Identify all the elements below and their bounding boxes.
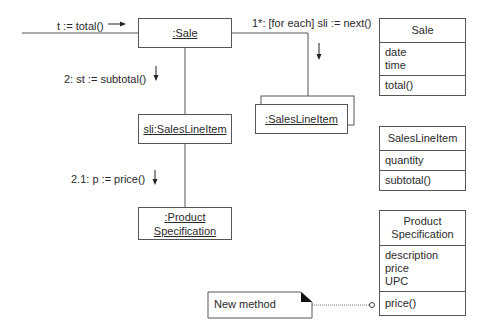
attribute: time [385,59,460,72]
arrow-right-icon [108,22,126,27]
class-sli-attributes: quantity [380,151,465,171]
class-prodspec-attributes: description price UPC [380,246,465,292]
operation: total() [385,79,460,92]
class-sales-line-item[interactable]: SalesLineItem quantity subtotal() [379,126,466,191]
class-sale-operations: total() [380,76,465,95]
object-sale[interactable]: :Sale [138,18,232,48]
class-prodspec-name-1: Product [382,215,463,228]
object-prodspec-label-1: :Product [165,210,206,224]
arrow-down-icon [154,66,159,81]
class-prodspec-name-2: Specification [382,228,463,241]
attribute: date [385,46,460,59]
multiobject-sales-line-item[interactable]: :SalesLineItem [255,104,348,134]
note-text: New method [214,298,276,310]
message-price: 2.1: p := price() [71,173,145,185]
message-total: t := total() [57,20,104,32]
message-subtotal: 2: st := subtotal() [64,73,146,85]
object-prodspec-label-2: Specification [154,224,216,238]
arrow-down-icon [153,170,158,185]
class-sli-operations: subtotal() [380,171,465,190]
operation: price() [385,297,460,310]
multiobject-label: :SalesLineItem [265,112,338,126]
message-next: 1*: [for each] sli := next() [252,17,372,29]
class-sli-name: SalesLineItem [380,127,465,151]
attribute: description [385,249,460,262]
class-sale[interactable]: Sale date time total() [379,18,466,96]
object-product-specification[interactable]: :Product Specification [138,207,232,240]
object-sli-label: sli:SalesLineItem [143,122,226,136]
object-sale-label: :Sale [172,26,197,40]
class-sale-name: Sale [380,19,465,43]
object-sli[interactable]: sli:SalesLineItem [138,114,232,144]
class-prodspec-name: Product Specification [380,211,465,246]
attribute: price [385,262,460,275]
link-sale-multiobject [232,33,308,96]
attribute: UPC [385,275,460,288]
operation: subtotal() [385,174,460,187]
attribute: quantity [385,154,460,167]
connector-end-icon [370,303,375,308]
class-sale-attributes: date time [380,43,465,76]
class-product-specification[interactable]: Product Specification description price … [379,210,466,316]
class-prodspec-operations: price() [380,292,465,315]
arrow-down-icon [317,43,322,60]
